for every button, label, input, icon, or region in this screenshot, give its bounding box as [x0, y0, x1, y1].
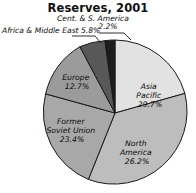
pie-label-former-soviet-union-line1: Former: [57, 117, 86, 126]
pie-label-europe-value: 12.7%: [65, 82, 89, 91]
pie-label-europe-line1: Europe: [62, 73, 89, 82]
pie-label-europe: Europe 12.7%: [62, 73, 92, 91]
pie-leader-line-cent-s-america-hook: [124, 33, 131, 40]
pie-label-asia-pacific-line1: Asia: [140, 82, 157, 91]
pie-label-north-america-value: 26.2%: [125, 157, 149, 166]
pie-chart-figure: Reserves, 2001 Cent. & S. America 2.2% A…: [0, 0, 196, 193]
pie-svg: Asia Pacific 29.7% North America 26.2% F…: [0, 0, 196, 193]
pie-label-asia-pacific-value: 29.7%: [138, 100, 162, 109]
pie-label-asia-pacific-line2: Pacific: [136, 91, 162, 100]
pie-label-north-america: North America 26.2%: [119, 139, 154, 166]
pie-label-former-soviet-union-line2: Soviet Union: [46, 126, 95, 135]
pie-label-north-america-line1: North: [125, 139, 147, 148]
pie-label-former-soviet-union-value: 23.4%: [60, 135, 84, 144]
pie-label-north-america-line2: America: [119, 148, 152, 157]
